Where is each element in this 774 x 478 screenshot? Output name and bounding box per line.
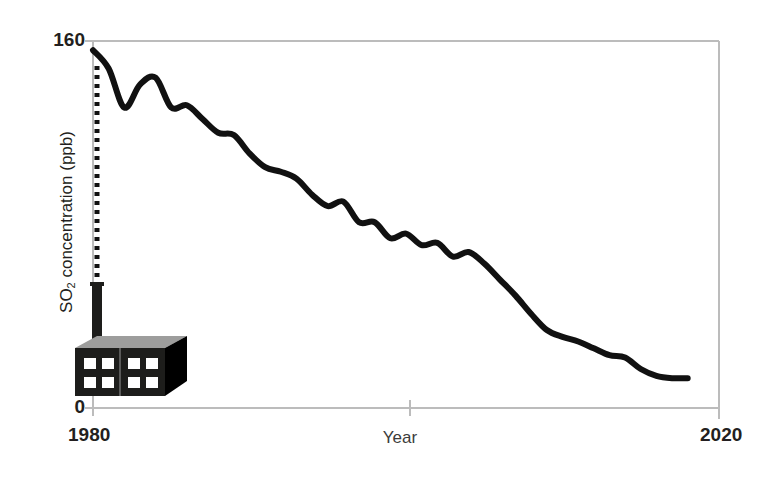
so2-concentration-chart: 160 0 1980 2020 Year SO2 concentration (… — [0, 0, 774, 478]
y-axis-min-tick-label: 0 — [55, 396, 85, 418]
y-axis-max-tick-label: 160 — [40, 29, 85, 51]
x-axis-start-tick-label: 1980 — [68, 424, 110, 446]
x-axis-title: Year — [340, 428, 460, 448]
x-axis-end-tick-label: 2020 — [700, 424, 742, 446]
y-axis-title-pre: SO — [57, 288, 76, 313]
y-axis-title-post: concentration (ppb) — [57, 131, 76, 282]
y-axis-title: SO2 concentration (ppb) — [57, 72, 77, 372]
building-divider — [119, 348, 121, 396]
factory-illustration — [62, 278, 192, 410]
y-axis-title-subscript: 2 — [65, 282, 77, 288]
